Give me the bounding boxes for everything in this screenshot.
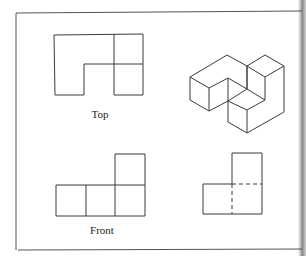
front-view: Front	[56, 154, 145, 236]
diagram-svg: Top Front	[0, 0, 306, 256]
iso-tower-top	[247, 55, 284, 77]
iso-left-block-front-right	[209, 101, 228, 111]
front-view-label: Front	[90, 224, 114, 236]
page-binding-shadow	[298, 0, 306, 256]
iso-front-cube-top	[228, 89, 265, 110]
side-view	[203, 153, 262, 214]
isometric-view	[190, 55, 284, 133]
top-view: Top	[54, 34, 143, 120]
top-view-label: Top	[92, 108, 109, 120]
diagram-canvas: Top Front	[0, 0, 306, 256]
iso-left-block-top	[190, 55, 247, 89]
figure-frame-bottom	[18, 249, 302, 250]
